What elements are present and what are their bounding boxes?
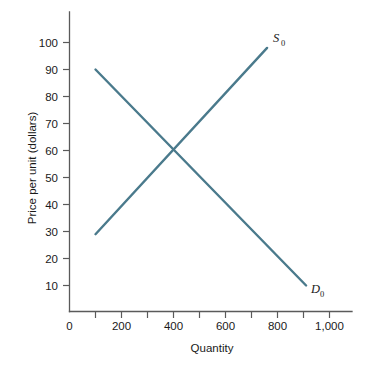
- y-tick-label-50: 50: [45, 172, 58, 184]
- y-tick-label-20: 20: [45, 253, 58, 265]
- demand-curve-D0: [96, 70, 307, 286]
- x-tick-label-600: 600: [216, 320, 235, 332]
- x-tick-label-400: 400: [164, 320, 183, 332]
- x-tick-label-1000: 1,000: [315, 320, 344, 332]
- supply-curve-label: S 0: [273, 31, 285, 48]
- y-axis-title: Price per unit (dollars): [26, 112, 38, 225]
- x-tick-label-0: 0: [66, 320, 72, 332]
- chart-canvas: 100 90 80 70 60 50 40 30 20 10 0: [0, 0, 385, 369]
- supply-curve-S0: [96, 48, 268, 234]
- y-tick-label-80: 80: [45, 91, 58, 103]
- x-tick-label-800: 800: [268, 320, 287, 332]
- supply-demand-chart: 100 90 80 70 60 50 40 30 20 10 0: [0, 0, 385, 369]
- y-tick-label-10: 10: [45, 280, 58, 292]
- x-tick-label-200: 200: [112, 320, 131, 332]
- y-tick-label-60: 60: [45, 145, 58, 157]
- demand-label-subscript: 0: [320, 289, 324, 299]
- x-axis-title: Quantity: [191, 342, 234, 354]
- y-tick-label-70: 70: [45, 118, 58, 130]
- supply-label-text: S: [273, 31, 280, 45]
- y-axis-ticks: 100 90 80 70 60 50 40 30 20 10: [39, 37, 70, 292]
- y-tick-label-30: 30: [45, 226, 58, 238]
- x-axis-ticks: 0 200 400 600 800 1,000: [66, 312, 344, 333]
- demand-label-text: D: [310, 282, 320, 296]
- curves-group: [96, 48, 307, 286]
- supply-label-subscript: 0: [281, 38, 285, 48]
- y-tick-label-100: 100: [39, 37, 58, 49]
- y-tick-label-40: 40: [45, 199, 58, 211]
- y-tick-label-90: 90: [45, 64, 58, 76]
- demand-curve-label: D 0: [310, 282, 324, 299]
- axes-group: [70, 12, 353, 312]
